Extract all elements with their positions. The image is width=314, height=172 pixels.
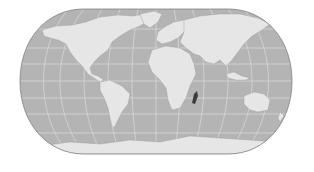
world-map-figure	[0, 0, 314, 172]
world-map	[0, 0, 314, 172]
